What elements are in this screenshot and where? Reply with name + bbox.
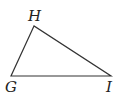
vertex-label-g: G <box>5 78 17 96</box>
triangle-diagram: H G I <box>0 0 122 98</box>
vertex-label-i: I <box>105 78 113 96</box>
vertex-label-h: H <box>27 7 42 25</box>
triangle-ghi <box>11 26 111 76</box>
